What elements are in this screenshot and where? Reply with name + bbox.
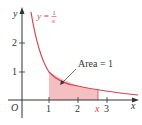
curve-reciprocal: [31, 12, 138, 95]
y-tick-label-1: 1: [12, 66, 17, 77]
reciprocal-area-diagram: y x O 1 2 3 x 1 2 Area = 1 y = 1 x: [0, 0, 142, 125]
curve-label-lhs: y =: [36, 11, 49, 21]
x-marker-label: x: [94, 103, 100, 114]
shaded-area: [49, 72, 98, 100]
x-tick-label-2: 2: [75, 103, 80, 114]
curve-label: y = 1 x: [36, 9, 57, 24]
curve-label-num: 1: [53, 9, 56, 16]
x-axis-label: x: [130, 100, 136, 111]
origin-label: O: [11, 102, 18, 113]
curve-label-den: x: [51, 17, 55, 24]
y-axis-label: y: [12, 8, 18, 19]
area-pointer: [62, 69, 76, 83]
y-tick-label-2: 2: [12, 37, 17, 48]
area-label: Area = 1: [78, 58, 113, 69]
x-tick-label-3: 3: [104, 103, 109, 114]
y-axis-arrow-icon: [20, 7, 25, 14]
x-tick-label-1: 1: [46, 103, 51, 114]
